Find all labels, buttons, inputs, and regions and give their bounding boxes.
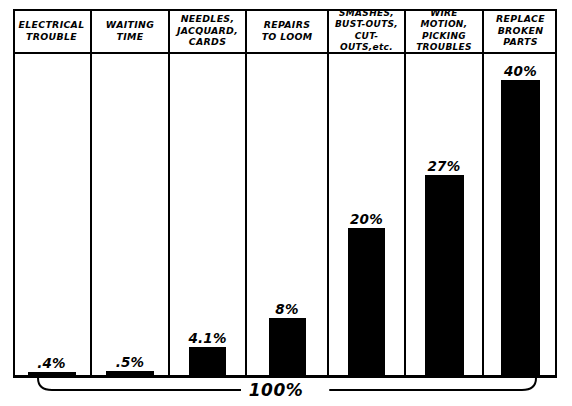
bar-rect xyxy=(348,228,385,378)
bar-value-label: 20% xyxy=(350,212,383,226)
category-header-cell: REPAIRS TO LOOM xyxy=(245,9,327,52)
category-header-cell: REPLACE BROKEN PARTS xyxy=(482,9,557,52)
bar-column: 27% xyxy=(404,54,482,378)
bar-value-label: 40% xyxy=(504,64,537,78)
bar-column: 8% xyxy=(245,54,327,378)
bar-rect xyxy=(269,318,306,378)
bar-value-label: 27% xyxy=(428,159,461,173)
category-header-cell: ELECTRICAL TROUBLE xyxy=(13,9,90,52)
bar-value-label: 4.1% xyxy=(188,331,226,345)
category-header-row: ELECTRICAL TROUBLE WAITING TIME NEEDLES,… xyxy=(13,9,557,54)
bar-rect xyxy=(189,347,226,378)
bar-value-label: 8% xyxy=(275,302,298,316)
bar-column: 40% xyxy=(482,54,557,378)
total-percent-label: 100% xyxy=(241,380,311,400)
category-header-cell: WAITING TIME xyxy=(90,9,168,52)
category-header-cell: WIRE MOTION, PICKING TROUBLES xyxy=(404,9,482,52)
bar-chart: ELECTRICAL TROUBLE WAITING TIME NEEDLES,… xyxy=(0,0,572,406)
bar-value-label: .4% xyxy=(37,356,66,370)
bar-column: .5% xyxy=(90,54,168,378)
bar-rect xyxy=(501,80,540,378)
category-header-cell: SMASHES, BUST-OUTS, CUT-OUTS,etc. xyxy=(327,9,404,52)
bar-column: .4% xyxy=(13,54,90,378)
plot-area: .4% .5% 4.1% 8% 20% 27% 40% xyxy=(13,54,557,378)
bar-column: 4.1% xyxy=(168,54,245,378)
bar-column: 20% xyxy=(327,54,404,378)
bar-value-label: .5% xyxy=(116,355,145,369)
bar-rect xyxy=(425,175,464,378)
category-header-cell: NEEDLES, JACQUARD, CARDS xyxy=(168,9,245,52)
